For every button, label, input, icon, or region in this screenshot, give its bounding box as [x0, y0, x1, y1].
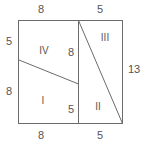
length-label-right: 13 — [126, 64, 142, 75]
length-label-bottom-right: 5 — [93, 130, 107, 141]
region-label-lower-left: I — [38, 96, 48, 106]
slant-line-four-one — [19, 60, 79, 84]
geometry-figure: 8 5 5 8 13 8 5 8 5 IV I III II — [0, 0, 144, 146]
length-label-left-upper: 5 — [4, 36, 14, 47]
length-label-top-left: 8 — [34, 4, 48, 15]
region-label-upper-right: III — [98, 33, 112, 43]
figure-drawing — [0, 0, 144, 146]
length-label-bottom-left: 8 — [34, 130, 48, 141]
length-label-divider-upper: 8 — [66, 47, 76, 58]
region-label-lower-right: II — [93, 102, 103, 112]
length-label-top-right: 5 — [93, 4, 107, 15]
length-label-divider-lower: 5 — [66, 104, 76, 115]
length-label-left-lower: 8 — [4, 86, 14, 97]
region-label-upper-left: IV — [37, 46, 51, 56]
